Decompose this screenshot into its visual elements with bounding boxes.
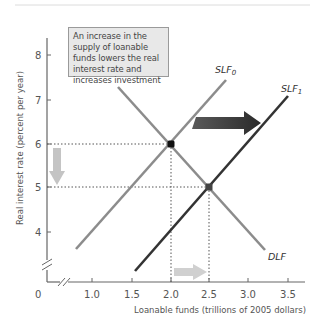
x-tick-2.0: 2.0 bbox=[163, 289, 179, 300]
x-axis-title: Loanable funds (trillions of 2005 dollar… bbox=[134, 305, 306, 315]
x-tick-1.0: 1.0 bbox=[84, 289, 100, 300]
y-tick-8: 8 bbox=[35, 50, 41, 61]
x-tick-3.0: 3.0 bbox=[240, 289, 256, 300]
y-axis-title: Real interest rate (percent per year) bbox=[15, 71, 25, 225]
slf0-label: SLF0 bbox=[215, 64, 237, 77]
y-tick-5: 5 bbox=[35, 182, 41, 193]
y-tick-4: 4 bbox=[35, 227, 41, 238]
equilibrium-point-new bbox=[206, 184, 213, 191]
callout-box: An increase in the supply of loanable fu… bbox=[68, 27, 169, 77]
origin-label: 0 bbox=[35, 289, 41, 300]
dlf-curve bbox=[118, 87, 265, 250]
y-tick-6: 6 bbox=[35, 139, 41, 150]
quantity-increases-arrow-icon bbox=[174, 264, 207, 280]
supply-shift-arrow-icon bbox=[192, 111, 261, 135]
x-tick-1.5: 1.5 bbox=[124, 289, 140, 300]
slf0-curve bbox=[76, 80, 226, 249]
slf1-label: SLF1 bbox=[281, 83, 302, 96]
equilibrium-point-initial bbox=[168, 141, 175, 148]
x-tick-3.5: 3.5 bbox=[280, 289, 296, 300]
x-axis bbox=[47, 278, 305, 286]
y-tick-7: 7 bbox=[35, 95, 41, 106]
interest-rate-falls-arrow-icon bbox=[49, 148, 65, 185]
x-tick-2.5: 2.5 bbox=[201, 289, 217, 300]
y-axis bbox=[42, 38, 52, 282]
dlf-label: DLF bbox=[268, 251, 287, 262]
